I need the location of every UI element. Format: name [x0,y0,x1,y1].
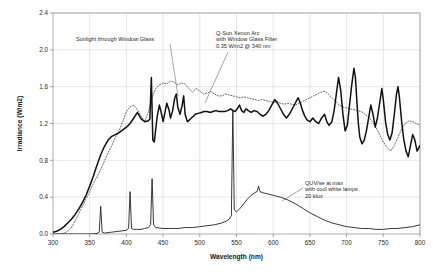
annotation-line: 20 klux [305,193,323,199]
x-axis-title: Wavelength (nm) [210,253,263,261]
annotation-line: 0.35 W/m2 @ 340 nm [216,43,271,49]
y-tick-label: 2.4 [39,9,48,16]
x-tick-label: 800 [415,239,426,246]
annotation-line: Sunlight through Window Glass [76,36,154,42]
annotation-line: QUV/se at max [305,180,343,186]
annotation-sunlight: Sunlight through Window Glass [76,36,154,42]
y-tick-label: 0.4 [39,193,48,200]
x-tick-label: 550 [231,239,242,246]
x-tick-label: 650 [305,239,316,246]
annotation-line: with Window Glass Filter [215,36,277,42]
x-tick-label: 500 [195,239,206,246]
x-tick-label: 750 [378,239,389,246]
y-tick-label: 1.2 [39,120,48,127]
y-tick-label: 2.0 [39,46,48,53]
x-tick-label: 700 [341,239,352,246]
x-tick-label: 400 [121,239,132,246]
x-tick-label: 450 [158,239,169,246]
annotation-line: with cool white lamps [304,186,358,192]
x-tick-label: 300 [48,239,59,246]
annotation-line: Q-Sun Xenon Arc [216,30,260,36]
chart-figure: 3003504004505005506006507007508000.00.40… [0,0,433,272]
y-tick-label: 0.0 [39,230,48,237]
x-tick-label: 350 [84,239,95,246]
x-tick-label: 600 [268,239,279,246]
y-tick-label: 1.6 [39,83,48,90]
spectral-irradiance-chart: 3003504004505005506006507007508000.00.40… [0,0,433,272]
y-tick-label: 0.8 [39,157,48,164]
y-axis-title: Irradiance (W/m2) [16,96,24,151]
